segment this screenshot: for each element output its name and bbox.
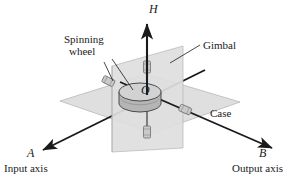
spinning-wheel-label-line1: Spinning <box>64 33 104 45</box>
spinning-wheel-label: Spinning wheel <box>64 34 104 57</box>
origin-label: O <box>141 84 150 97</box>
gimbal-label: Gimbal <box>203 40 236 52</box>
input-axis-name-label: Input axis <box>4 163 48 175</box>
output-axis-letter-label: B <box>259 147 266 160</box>
spinning-wheel-rotor <box>119 83 161 112</box>
input-axis-letter-label: A <box>27 147 34 160</box>
spinning-wheel-label-line2: wheel <box>64 46 104 58</box>
lower-pivot-bearing <box>144 126 151 138</box>
angular-momentum-label: H <box>149 3 158 16</box>
output-axis-name-label: Output axis <box>232 163 283 175</box>
case-label: Case <box>210 108 231 120</box>
gyroscope-figure: Spinning wheel Gimbal Case H A B Input a… <box>0 0 298 184</box>
